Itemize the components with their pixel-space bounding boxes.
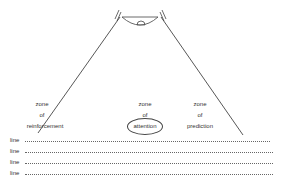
zone-prediction-of: of bbox=[180, 112, 220, 118]
dotted-line bbox=[25, 163, 273, 164]
dotted-line bbox=[25, 141, 270, 142]
zone-attention-label: zone bbox=[125, 101, 165, 107]
zone-reinforcement-name: reinforcement bbox=[20, 123, 70, 129]
zone-word: zone bbox=[22, 101, 62, 107]
cone-lines-svg bbox=[0, 0, 284, 185]
dotted-line bbox=[25, 174, 273, 175]
zone-prediction-label: zone bbox=[180, 101, 220, 107]
zone-reinforcement-label: zone bbox=[22, 101, 62, 107]
zone-prediction-name: prediction bbox=[180, 123, 220, 129]
dotted-line bbox=[25, 152, 273, 153]
zone-attention-name: attention bbox=[125, 123, 165, 129]
zone-reinforcement-of: of bbox=[22, 112, 62, 118]
